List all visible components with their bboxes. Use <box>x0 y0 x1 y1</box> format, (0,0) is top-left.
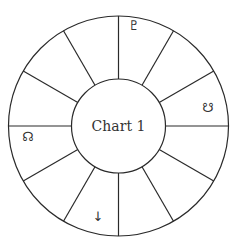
house-cusp-line <box>23 71 78 103</box>
house-cusp-line <box>64 31 96 86</box>
house-cusp-line <box>23 150 78 182</box>
chart-title: Chart 1 <box>92 118 146 134</box>
down-arrow-glyph-icon: ↓ <box>93 209 104 224</box>
pluto-glyph-icon: ♇ <box>128 18 140 33</box>
house-cusp-line <box>64 167 96 222</box>
descending-node-glyph-icon: ☋ <box>202 100 214 115</box>
house-cusp-line <box>159 150 214 182</box>
astrology-chart-wheel: Chart 1 ♇☋☊↓ <box>0 0 235 246</box>
house-cusp-line <box>159 71 214 103</box>
house-cusp-line <box>142 167 174 222</box>
ascending-node-glyph-icon: ☊ <box>22 129 34 144</box>
house-cusp-line <box>142 31 174 86</box>
